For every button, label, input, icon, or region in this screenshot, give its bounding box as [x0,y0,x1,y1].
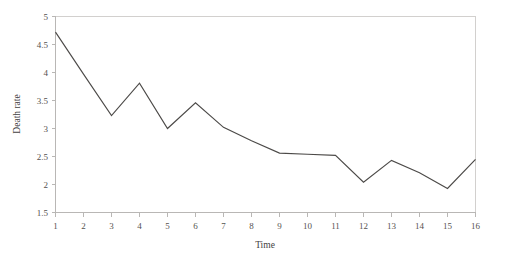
x-tick-label: 4 [137,221,142,231]
x-tick-marks [56,213,476,217]
x-axis: 1 2 3 4 5 6 7 8 9 10 11 12 13 14 15 16 T… [53,213,480,251]
x-tick-label: 8 [249,221,254,231]
y-tick-label: 2.5 [37,152,49,162]
x-tick-label: 11 [331,221,340,231]
y-tick-label: 4.5 [37,40,49,50]
x-tick-label: 9 [277,221,282,231]
x-axis-title: Time [255,240,275,250]
y-tick-marks [52,17,56,213]
data-series-line [56,32,476,188]
x-tick-label: 6 [193,221,198,231]
y-tick-label: 3 [44,124,49,134]
x-tick-label: 16 [471,221,481,231]
y-tick-label: 2 [44,180,49,190]
y-axis-title: Death rate [12,94,22,133]
y-axis: 5 4.5 4 3.5 3 2.5 2 1.5 Death rate [12,12,56,218]
line-chart: 5 4.5 4 3.5 3 2.5 2 1.5 Death rate [0,0,509,265]
plot-frame [56,17,476,213]
y-tick-labels: 5 4.5 4 3.5 3 2.5 2 1.5 [37,12,49,218]
x-tick-label: 13 [387,221,397,231]
y-tick-label: 1.5 [37,208,49,218]
x-tick-labels: 1 2 3 4 5 6 7 8 9 10 11 12 13 14 15 16 [53,221,480,231]
x-tick-label: 7 [221,221,226,231]
x-tick-label: 14 [415,221,425,231]
x-tick-label: 15 [443,221,453,231]
x-tick-label: 3 [109,221,114,231]
x-tick-label: 1 [53,221,58,231]
x-tick-label: 2 [81,221,86,231]
y-tick-label: 3.5 [37,96,49,106]
x-tick-label: 12 [359,221,368,231]
x-tick-label: 5 [165,221,170,231]
x-tick-label: 10 [303,221,313,231]
y-tick-label: 5 [44,12,49,22]
y-tick-label: 4 [44,68,49,78]
chart-svg: 5 4.5 4 3.5 3 2.5 2 1.5 Death rate [0,0,509,265]
